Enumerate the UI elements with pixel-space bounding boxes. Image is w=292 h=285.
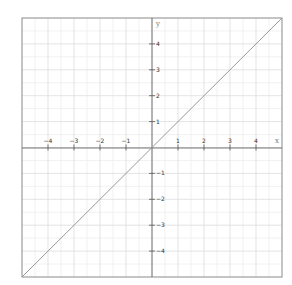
x-axis-label: x [275, 137, 279, 145]
y-tick-label: 4 [156, 40, 160, 47]
x-tick-label: −2 [96, 137, 105, 144]
y-tick-label: −4 [156, 247, 165, 254]
y-tick-label: −2 [156, 195, 165, 202]
x-tick-label: −4 [44, 137, 53, 144]
x-tick-label: −3 [70, 137, 79, 144]
x-tick-label: −1 [122, 137, 131, 144]
tick-labels: −4−3−2−11234−4−3−2−11234 [44, 40, 259, 254]
y-tick-label: 3 [156, 66, 160, 73]
plot-area: −4−3−2−11234−4−3−2−11234 x y [0, 0, 292, 285]
x-tick-label: 4 [254, 137, 258, 144]
x-tick-label: 3 [228, 137, 232, 144]
y-axis-label: y [155, 20, 160, 28]
x-tick-label: 2 [202, 137, 206, 144]
y-tick-label: 2 [156, 92, 160, 99]
y-tick-label: 1 [156, 118, 160, 125]
y-tick-label: −3 [156, 221, 165, 228]
y-tick-label: −1 [156, 169, 165, 176]
x-tick-label: 1 [176, 137, 180, 144]
